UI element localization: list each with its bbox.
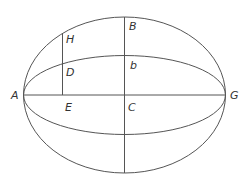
ellipse-diagram: A G B b C H D E bbox=[0, 0, 252, 184]
label-H: H bbox=[66, 33, 74, 46]
label-D: D bbox=[66, 66, 74, 79]
label-A: A bbox=[10, 89, 19, 102]
label-B: B bbox=[129, 20, 137, 33]
label-G: G bbox=[230, 89, 239, 102]
label-E: E bbox=[65, 101, 72, 114]
label-C: C bbox=[128, 101, 136, 114]
label-b: b bbox=[130, 59, 137, 72]
